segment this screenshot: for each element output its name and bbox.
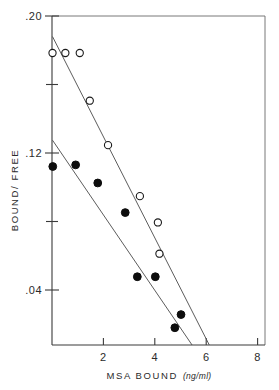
y-tick-label-004: .04 — [25, 284, 42, 296]
x-tick-label-6: 6 — [203, 351, 210, 363]
x-tick-label-4: 4 — [151, 351, 158, 363]
x-tick-label-8: 8 — [254, 351, 261, 363]
x-axis-ticks — [103, 338, 257, 345]
x-axis-title: MSA BOUND(ng/ml) — [107, 370, 212, 381]
data-point — [49, 49, 56, 56]
regression-line-filled — [53, 140, 193, 345]
x-tick-labels: 2 4 6 8 — [100, 351, 261, 363]
data-point — [72, 161, 80, 169]
data-point — [171, 324, 179, 332]
data-point — [49, 163, 57, 171]
chart-container: .20 .12 .04 2 4 6 8 MSA BOUND(ng/ml) BOU… — [0, 0, 279, 390]
data-points-open — [49, 49, 163, 257]
data-point — [62, 49, 69, 56]
y-tick-label-012: .12 — [25, 147, 42, 159]
data-point — [121, 209, 129, 217]
data-point — [154, 219, 161, 226]
data-point — [86, 97, 93, 104]
data-point — [133, 273, 141, 281]
data-point — [104, 142, 111, 149]
data-points-filled — [49, 161, 185, 332]
y-tick-label-020: .20 — [25, 10, 42, 22]
x-tick-label-2: 2 — [100, 351, 107, 363]
scatchard-plot: .20 .12 .04 2 4 6 8 MSA BOUND(ng/ml) BOU… — [0, 0, 279, 390]
data-point — [76, 49, 83, 56]
y-axis-title: BOUND/ FREE — [9, 149, 20, 232]
data-point — [156, 250, 163, 257]
data-point — [94, 179, 102, 187]
data-point — [136, 193, 143, 200]
data-point — [177, 311, 185, 319]
y-tick-labels: .20 .12 .04 — [25, 10, 42, 296]
data-point — [151, 273, 159, 281]
regression-lines — [53, 37, 210, 345]
regression-line-open — [53, 37, 210, 345]
